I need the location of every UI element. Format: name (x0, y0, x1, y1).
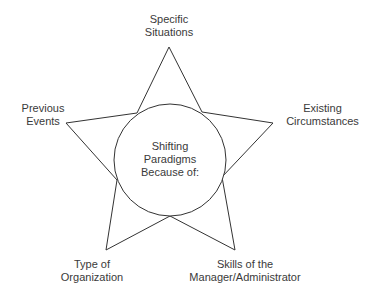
label-line: Previous (8, 102, 78, 115)
center-line: Paradigms (130, 153, 210, 166)
label-line: Organization (57, 271, 127, 284)
label-existing-circumstances: Existing Circumstances (280, 102, 365, 128)
center-line: Because of: (130, 166, 210, 179)
label-line: Situations (134, 26, 204, 39)
label-line: Circumstances (280, 115, 365, 128)
label-line: Type of (57, 258, 127, 271)
label-type-of-organization: Type of Organization (57, 258, 127, 284)
label-specific-situations: Specific Situations (134, 13, 204, 39)
label-previous-events: Previous Events (8, 102, 78, 128)
label-line: Existing (280, 102, 365, 115)
label-line: Specific (134, 13, 204, 26)
label-line: Manager/Administrator (185, 271, 305, 284)
label-line: Skills of the (185, 258, 305, 271)
label-skills-of-manager: Skills of the Manager/Administrator (185, 258, 305, 284)
label-center: Shifting Paradigms Because of: (130, 140, 210, 179)
center-line: Shifting (130, 140, 210, 153)
label-line: Events (8, 115, 78, 128)
